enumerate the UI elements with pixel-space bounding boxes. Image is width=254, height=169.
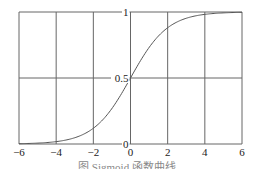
x-tick-label: −4 [50,146,62,158]
figure-caption: 图 Sigmoid 函数曲线 [0,162,254,169]
y-tick-label: 1 [123,6,129,18]
x-tick-label: 4 [202,146,208,158]
x-tick-label: −2 [87,146,99,158]
x-tick-label: 6 [239,146,245,158]
x-tick-label: 2 [165,146,171,158]
y-tick-label: 0 [123,138,129,150]
y-tick-label: 0.5 [115,72,129,84]
tick-labels: −6−4−2024600.51 [13,6,245,158]
x-tick-label: −6 [13,146,25,158]
sigmoid-chart: −6−4−2024600.51 [0,0,254,160]
